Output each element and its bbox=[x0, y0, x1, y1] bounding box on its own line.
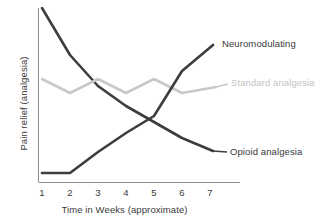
x-tick-label-3: 3 bbox=[88, 187, 108, 198]
series-label-opioid-analgesia: Opioid analgesia bbox=[230, 146, 302, 157]
x-tick-label-5: 5 bbox=[144, 187, 164, 198]
x-tick-label-6: 6 bbox=[172, 187, 192, 198]
series-label-neuromodulating: Neuromodulating bbox=[222, 38, 296, 49]
series-label-standard-analgesia: Standard analgesia bbox=[231, 77, 315, 88]
y-axis-title: Pain relief (analgesia) bbox=[18, 19, 29, 189]
series-line-opioid-analgesia bbox=[42, 8, 213, 151]
x-tick-label-4: 4 bbox=[116, 187, 136, 198]
x-tick-label-2: 2 bbox=[60, 187, 80, 198]
series-line-standard-analgesia bbox=[42, 79, 216, 93]
x-axis-title: Time in Weeks (approximate) bbox=[0, 204, 249, 215]
x-tick-label-7: 7 bbox=[200, 187, 220, 198]
series-line-neuromodulating bbox=[42, 45, 213, 173]
leader-line-standard-analgesia bbox=[216, 84, 228, 87]
x-tick-label-1: 1 bbox=[32, 187, 52, 198]
leader-line-opioid-analgesia bbox=[213, 151, 227, 152]
chart-container: Neuromodulating Standard analgesia Opioi… bbox=[0, 0, 323, 223]
